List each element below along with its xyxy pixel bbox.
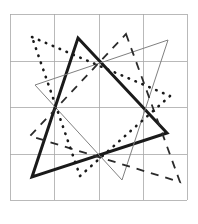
geometry-plot bbox=[0, 0, 198, 224]
figure-container bbox=[0, 0, 198, 224]
